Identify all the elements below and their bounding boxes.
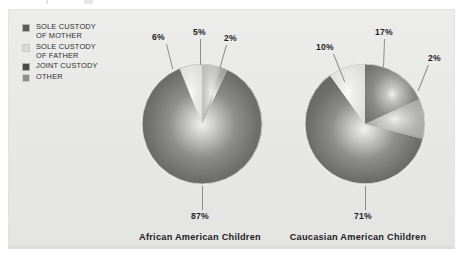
pie-right-svg	[303, 62, 427, 186]
pie-right-caption: Caucasian American Children	[253, 232, 463, 242]
pie-chart-caucasian-american: 10% 17% 2% 71% Caucasian American Childr…	[0, 0, 463, 237]
pie-right-leader-mother	[365, 186, 366, 210]
panel-drop-shadow	[8, 246, 455, 249]
pie-right-label-other: 2%	[428, 53, 441, 63]
chart-figure: SOLE CUSTODY OF MOTHER SOLE CUSTODY OF F…	[0, 0, 463, 264]
pie-right-graphic	[303, 62, 427, 186]
pie-right-label-joint-custody: 17%	[375, 27, 393, 37]
pie-right-label-sole-custody-mother: 71%	[354, 211, 372, 221]
pie-right-label-sole-custody-father: 10%	[316, 42, 334, 52]
